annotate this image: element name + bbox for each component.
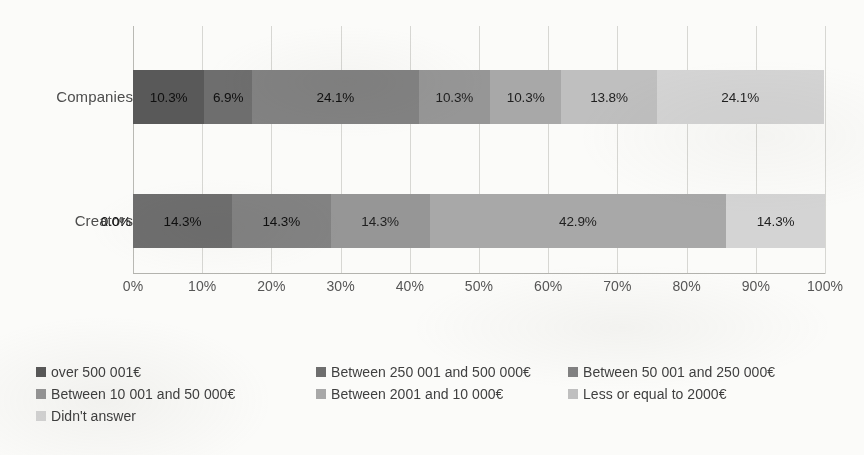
bar-segment[interactable]: 24.1% [657, 70, 824, 124]
bar-segment[interactable]: 10.3% [133, 70, 204, 124]
legend-item[interactable]: over 500 001€ [36, 364, 316, 380]
bar-segment-value-label: 13.8% [590, 90, 628, 105]
legend-item[interactable]: Between 2001 and 10 000€ [316, 386, 568, 402]
legend-swatch-icon [316, 389, 326, 399]
bar-segment-value-label: 10.3% [150, 90, 188, 105]
x-axis-tick-labels: 0%10%20%30%40%50%60%70%80%90%100% [133, 278, 825, 300]
legend-item-label: over 500 001€ [51, 364, 141, 380]
legend-swatch-icon [36, 411, 46, 421]
legend-swatch-icon [36, 389, 46, 399]
legend-item-label: Between 10 001 and 50 000€ [51, 386, 235, 402]
bar-segment-value-label: 0.0% [101, 214, 131, 229]
x-tick-label: 100% [807, 278, 843, 294]
bar-segment-value-label: 10.3% [507, 90, 545, 105]
bar-segment[interactable]: 13.8% [561, 70, 656, 124]
legend-item-label: Between 50 001 and 250 000€ [583, 364, 775, 380]
bar-segment[interactable]: 10.3% [490, 70, 561, 124]
legend-item[interactable]: Didn't answer [36, 408, 316, 424]
bar-segment-value-label: 24.1% [316, 90, 354, 105]
legend-item-label: Between 250 001 and 500 000€ [331, 364, 531, 380]
legend-item[interactable]: Between 10 001 and 50 000€ [36, 386, 316, 402]
legend-item[interactable]: Between 250 001 and 500 000€ [316, 364, 568, 380]
x-tick-label: 50% [465, 278, 493, 294]
legend-item-label: Between 2001 and 10 000€ [331, 386, 503, 402]
plot-area: 10.3%6.9%24.1%10.3%10.3%13.8%24.1%0.0%14… [133, 26, 825, 274]
category-label-companies: Companies [56, 88, 133, 105]
bar-segment[interactable]: 14.3% [726, 194, 825, 248]
category-axis: CompaniesCreators [0, 26, 133, 274]
bar-segment-value-label: 14.3% [361, 214, 399, 229]
legend-item[interactable]: Less or equal to 2000€ [568, 386, 727, 402]
legend-swatch-icon [316, 367, 326, 377]
bar-row: 10.3%6.9%24.1%10.3%10.3%13.8%24.1% [133, 70, 825, 124]
x-tick-label: 90% [742, 278, 770, 294]
x-tick-label: 20% [257, 278, 285, 294]
legend-swatch-icon [568, 389, 578, 399]
legend-swatch-icon [36, 367, 46, 377]
x-tick-label: 10% [188, 278, 216, 294]
bar-segment-value-label: 14.3% [164, 214, 202, 229]
x-axis-line [133, 273, 825, 274]
bar-segment[interactable]: 14.3% [133, 194, 232, 248]
gridline [825, 26, 826, 274]
bar-segment-value-label: 24.1% [721, 90, 759, 105]
legend-row: Didn't answer [36, 408, 846, 424]
legend-row: over 500 001€Between 250 001 and 500 000… [36, 364, 846, 380]
bar-segment-value-label: 14.3% [757, 214, 795, 229]
bar-segment[interactable]: 24.1% [252, 70, 419, 124]
bar-segment-value-label: 10.3% [436, 90, 474, 105]
bar-segment[interactable]: 6.9% [204, 70, 252, 124]
bar-segment[interactable]: 14.3% [232, 194, 331, 248]
legend-swatch-icon [568, 367, 578, 377]
legend-item-label: Less or equal to 2000€ [583, 386, 727, 402]
bar-segment[interactable]: 10.3% [419, 70, 490, 124]
stacked-bar-chart: CompaniesCreators 10.3%6.9%24.1%10.3%10.… [0, 0, 864, 455]
x-tick-label: 0% [123, 278, 143, 294]
bar-segment-value-label: 42.9% [559, 214, 597, 229]
x-tick-label: 60% [534, 278, 562, 294]
chart-legend: over 500 001€Between 250 001 and 500 000… [36, 364, 846, 430]
bar-segment[interactable]: 42.9% [430, 194, 727, 248]
legend-item[interactable]: Between 50 001 and 250 000€ [568, 364, 775, 380]
legend-item-label: Didn't answer [51, 408, 136, 424]
bar-row: 0.0%14.3%14.3%14.3%42.9%14.3% [133, 194, 825, 248]
bar-segment[interactable]: 14.3% [331, 194, 430, 248]
x-tick-label: 40% [396, 278, 424, 294]
bar-segment-value-label: 14.3% [262, 214, 300, 229]
x-tick-label: 70% [603, 278, 631, 294]
x-tick-label: 30% [326, 278, 354, 294]
x-tick-label: 80% [672, 278, 700, 294]
bar-segment-value-label: 6.9% [213, 90, 243, 105]
legend-row: Between 10 001 and 50 000€Between 2001 a… [36, 386, 846, 402]
